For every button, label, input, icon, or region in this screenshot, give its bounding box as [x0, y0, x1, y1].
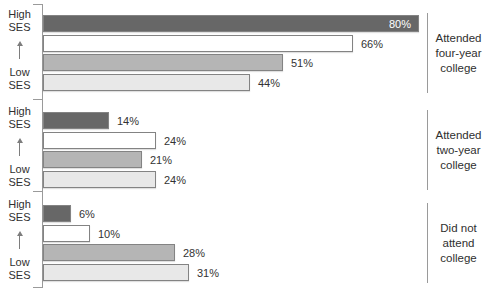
bar-value-label: 6%: [79, 208, 95, 220]
group-label-line: attend: [443, 236, 475, 251]
ses-low-label: Low SES: [8, 256, 30, 282]
axis-tick: [33, 191, 42, 192]
group-label-line: four-year: [435, 46, 481, 61]
group-label-line: Did not: [440, 221, 476, 236]
axis-tick: [33, 287, 42, 288]
arrow-shaft: [19, 143, 20, 156]
ses-axis-gutter: High SESLow SES: [1, 8, 38, 92]
group-label: Did notattendcollege: [431, 203, 486, 283]
bar: [43, 264, 189, 281]
bar: [43, 151, 142, 168]
bar-value-label: 44%: [258, 77, 280, 89]
group-bracket-line: [427, 203, 428, 283]
group-label-line: two-year: [436, 143, 480, 158]
bar: [43, 15, 419, 32]
group-bracket-line: [427, 13, 428, 93]
ses-direction-up-arrow-icon: [17, 138, 23, 156]
group-label: Attendedfour-yearcollege: [431, 13, 486, 93]
ses-axis-gutter: High SESLow SES: [1, 105, 38, 189]
bar-value-label: 28%: [183, 247, 205, 259]
bar: [43, 225, 90, 242]
bar: [43, 74, 250, 91]
bar: [43, 132, 156, 149]
group-label-line: Attended: [435, 31, 481, 46]
ses-high-label: High SES: [8, 8, 31, 34]
bar-value-label: 31%: [197, 267, 219, 279]
group-bracket-line: [427, 110, 428, 190]
bar-value-label: 80%: [377, 18, 411, 30]
axis-tick: [33, 4, 42, 5]
group-label-line: college: [440, 61, 476, 76]
bar: [43, 35, 353, 52]
bar-value-label: 51%: [291, 57, 313, 69]
group-label-line: college: [440, 158, 476, 173]
ses-college-attendance-bar-chart: High SESLow SES80%66%51%44%Attendedfour-…: [0, 0, 487, 302]
bar-value-label: 14%: [117, 115, 139, 127]
bar-value-label: 66%: [361, 38, 383, 50]
bar-value-label: 10%: [98, 228, 120, 240]
bar-value-label: 24%: [164, 135, 186, 147]
ses-direction-up-arrow-icon: [17, 41, 23, 59]
bar: [43, 244, 175, 261]
ses-direction-up-arrow-icon: [17, 231, 23, 249]
bar: [43, 171, 156, 188]
group-label: Attendedtwo-yearcollege: [431, 110, 486, 190]
group-label-line: college: [440, 251, 476, 266]
ses-low-label: Low SES: [8, 66, 30, 92]
bar: [43, 54, 283, 71]
group-label-line: Attended: [435, 128, 481, 143]
ses-high-label: High SES: [8, 198, 31, 224]
ses-axis-gutter: High SESLow SES: [1, 198, 38, 282]
bar: [43, 112, 109, 129]
arrow-shaft: [19, 46, 20, 59]
bar: [43, 205, 71, 222]
bar-value-label: 21%: [150, 154, 172, 166]
axis-tick: [33, 99, 42, 100]
ses-high-label: High SES: [8, 105, 31, 131]
bar-value-label: 24%: [164, 174, 186, 186]
arrow-shaft: [19, 236, 20, 249]
ses-low-label: Low SES: [8, 163, 30, 189]
